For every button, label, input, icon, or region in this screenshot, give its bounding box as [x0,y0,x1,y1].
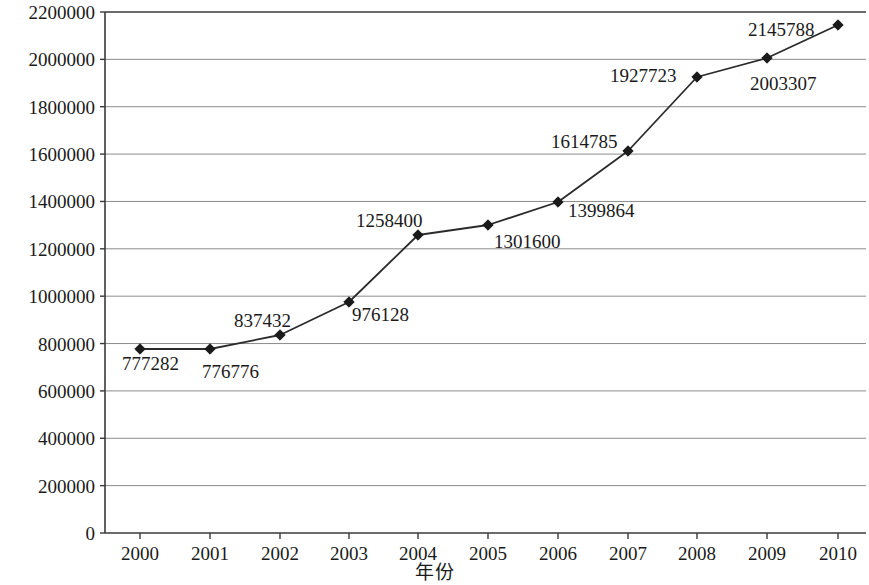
data-point-label: 1258400 [356,210,423,231]
data-point-label: 976128 [352,304,409,325]
y-axis-tick-label: 600000 [38,381,95,402]
y-axis-tick-label: 0 [86,523,96,544]
data-point-label: 1927723 [610,65,677,86]
y-axis-tick-label: 1800000 [29,97,96,118]
data-point-marker[interactable] [275,330,285,340]
data-point-label: 2145788 [748,19,815,40]
data-point-marker[interactable] [762,53,772,63]
data-point-label: 1301600 [494,231,561,252]
y-axis-title: 全部从业人员年平均人数（人） [0,0,34,585]
gridlines [105,59,866,485]
line-chart: 0200000400000600000800000100000012000001… [0,0,869,585]
data-point-label: 1614785 [551,131,618,152]
data-point-marker[interactable] [483,220,493,230]
data-point-label: 776776 [202,361,259,382]
data-point-label: 777282 [122,353,179,374]
y-axis-tick-label: 2200000 [29,2,96,23]
y-axis-tick-label: 200000 [38,476,95,497]
data-point-label: 1399864 [568,200,635,221]
data-point-label: 2003307 [750,73,817,94]
y-axis-tick-label: 1600000 [29,144,96,165]
y-axis-tick-label: 400000 [38,428,95,449]
series-markers [135,20,843,354]
x-axis-title: 年份 [0,557,869,584]
series-line [140,25,838,349]
data-point-marker[interactable] [833,20,843,30]
chart-canvas: 0200000400000600000800000100000012000001… [0,0,869,585]
y-axis-tick-labels: 0200000400000600000800000100000012000001… [29,2,96,544]
y-axis-tick-label: 2000000 [29,49,96,70]
x-axis-ticks [140,533,838,539]
series-polyline [140,25,838,349]
y-axis-tick-label: 1000000 [29,286,96,307]
data-point-marker[interactable] [205,344,215,354]
y-axis-tick-label: 1200000 [29,239,96,260]
y-axis-tick-label: 1400000 [29,191,96,212]
data-point-label: 837432 [234,310,291,331]
y-axis-tick-label: 800000 [38,334,95,355]
